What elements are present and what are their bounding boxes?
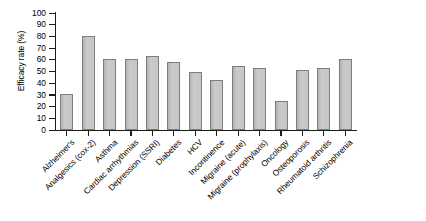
y-tick-mark [49, 118, 55, 119]
x-tick-mark [302, 131, 303, 136]
y-tick-mark [49, 130, 55, 131]
y-tick-label: 80 [20, 32, 46, 40]
y-tick-mark [49, 36, 55, 37]
bar [103, 59, 116, 130]
bar [339, 59, 352, 130]
x-tick-mark [216, 131, 217, 136]
y-tick-mark [49, 71, 55, 72]
y-tick-mark [49, 59, 55, 60]
x-tick-mark [109, 131, 110, 136]
efficacy-rate-bar-chart: Efficacy rate (%) 1009080706050403020100… [0, 0, 426, 221]
y-axis-line [55, 12, 56, 131]
x-tick-mark [152, 131, 153, 136]
y-tick-label: 50 [20, 67, 46, 75]
bar [232, 66, 245, 130]
x-tick-mark [259, 131, 260, 136]
bar [275, 101, 288, 130]
bar [253, 68, 266, 130]
bar [296, 70, 309, 130]
x-tick-mark [238, 131, 239, 136]
y-tick-mark [49, 83, 55, 84]
y-tick-label: 10 [20, 114, 46, 122]
y-tick-mark [49, 13, 55, 14]
x-axis-line [55, 130, 357, 131]
bar [189, 72, 202, 131]
bar [317, 68, 330, 130]
x-tick-mark [323, 131, 324, 136]
y-tick-label: 70 [20, 44, 46, 52]
y-tick-mark [49, 94, 55, 95]
bar [82, 36, 95, 130]
bar [125, 59, 138, 130]
x-tick-mark [130, 131, 131, 136]
x-tick-mark [66, 131, 67, 136]
x-tick-mark [88, 131, 89, 136]
x-tick-mark [345, 131, 346, 136]
y-tick-mark [49, 48, 55, 49]
bar [210, 80, 223, 130]
y-tick-label: 0 [20, 126, 46, 134]
bar [60, 94, 73, 130]
bar [167, 62, 180, 130]
x-tick-mark [280, 131, 281, 136]
y-tick-label: 100 [20, 9, 46, 17]
y-tick-label: 60 [20, 55, 46, 63]
y-tick-mark [49, 106, 55, 107]
x-tick-mark [195, 131, 196, 136]
y-tick-mark [49, 24, 55, 25]
y-tick-label: 90 [20, 20, 46, 28]
y-tick-label: 40 [20, 79, 46, 87]
y-tick-label: 20 [20, 102, 46, 110]
y-tick-label: 30 [20, 91, 46, 99]
x-tick-mark [173, 131, 174, 136]
bar [146, 56, 159, 130]
